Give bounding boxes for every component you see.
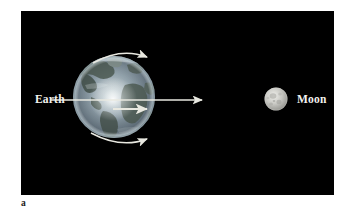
figure-caption-letter: a xyxy=(21,199,26,209)
scene-panel: Earth Moon xyxy=(21,11,334,195)
moon-body xyxy=(265,88,288,111)
moon-label: Moon xyxy=(297,94,327,106)
earth-label: Earth xyxy=(35,94,65,106)
figure-root: Earth Moon a xyxy=(0,0,350,217)
scene-illustration xyxy=(21,11,334,195)
